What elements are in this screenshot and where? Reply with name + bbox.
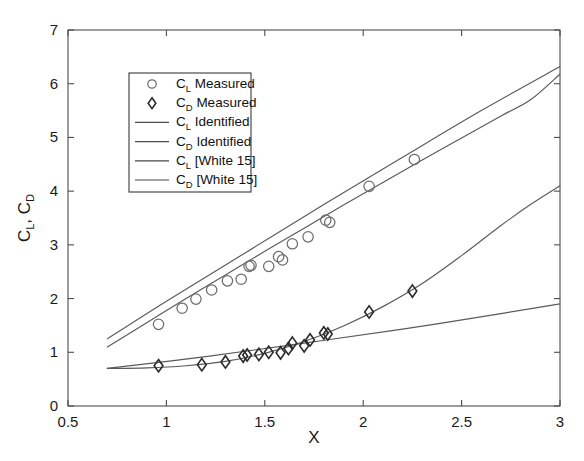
chart-figure: 0.511.522.53 01234567 X CL, CD CL Measur…	[0, 0, 584, 461]
y-axis-label: CL, CD	[15, 194, 36, 242]
y-label-cd-sub: D	[24, 194, 36, 202]
data-point-circle	[325, 217, 335, 227]
x-axis-label: X	[308, 428, 319, 447]
y-tick-label: 1	[50, 343, 58, 360]
data-point-circle	[303, 232, 313, 242]
scatter-chart: 0.511.522.53 01234567 X CL, CD CL Measur…	[0, 0, 584, 461]
x-tick-label: 2	[359, 413, 367, 430]
x-tick-label: 0.5	[58, 413, 79, 430]
data-point-circle	[264, 261, 274, 271]
legend-entry-tail: Identified	[191, 114, 250, 129]
data-point-circle	[287, 239, 297, 249]
y-label-comma-cd: , C	[15, 202, 34, 224]
series-curve	[107, 186, 560, 369]
data-point-circle	[191, 294, 201, 304]
y-tick-label: 6	[50, 75, 58, 92]
legend-symbol-main: C	[176, 153, 186, 168]
series-curve	[107, 304, 560, 368]
x-tick-label: 1.5	[254, 413, 275, 430]
data-point-circle	[177, 303, 187, 313]
legend-symbol-main: C	[176, 95, 186, 110]
x-tick-label: 2.5	[451, 413, 472, 430]
y-tick-label: 5	[50, 128, 58, 145]
y-tick-label: 3	[50, 236, 58, 253]
legend-symbol-main: C	[176, 114, 186, 129]
legend-entry-tail: Identified	[193, 134, 252, 149]
legend: CL MeasuredCD MeasuredCL IdentifiedCD Id…	[129, 73, 257, 192]
y-tick-label: 7	[50, 21, 58, 38]
y-tick-label: 0	[50, 397, 58, 414]
legend-entry-tail: [White 15]	[193, 172, 258, 187]
data-point-circle	[206, 285, 216, 295]
x-tick-label: 1	[162, 413, 170, 430]
y-axis-tick-labels: 01234567	[50, 21, 58, 414]
y-label-cl-main: C	[15, 230, 34, 242]
legend-entry-tail: Measured	[193, 95, 257, 110]
data-point-circle	[409, 154, 419, 164]
legend-symbol-main: C	[176, 172, 186, 187]
y-tick-label: 4	[50, 182, 58, 199]
legend-symbol-main: C	[176, 134, 186, 149]
y-axis-label-text: CL, CD	[15, 194, 36, 242]
legend-symbol-main: C	[176, 76, 186, 91]
y-tick-label: 2	[50, 290, 58, 307]
data-point-circle	[236, 274, 246, 284]
data-point-circle	[153, 319, 163, 329]
x-tick-label: 3	[556, 413, 564, 430]
data-point-diamond	[154, 360, 163, 372]
legend-entry-tail: [White 15]	[191, 153, 256, 168]
legend-entry-tail: Measured	[191, 76, 255, 91]
data-point-circle	[222, 276, 232, 286]
